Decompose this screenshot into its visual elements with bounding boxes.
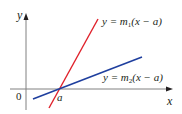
line-2-equation: y = m2(x − a) (103, 72, 163, 85)
line-1-equation: y = m1(x − a) (102, 16, 162, 29)
x-axis-label: x (167, 95, 172, 107)
y-axis-label: y (17, 9, 22, 21)
x-axis-arrow-icon (166, 87, 173, 92)
y-axis-arrow-icon (24, 13, 29, 20)
origin-label: 0 (16, 91, 22, 102)
point-a-label: a (57, 92, 63, 103)
